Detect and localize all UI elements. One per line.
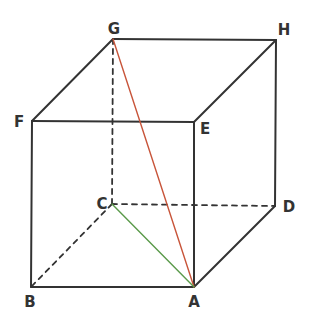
hidden-edge-cb <box>31 204 112 287</box>
vertex-label-c: C <box>96 195 107 213</box>
edge-he <box>194 40 276 122</box>
edge-hd <box>275 40 276 206</box>
vertex-label-g: G <box>108 20 120 38</box>
vertex-label-a: A <box>188 293 200 311</box>
cube-diagram: A B C D E F G H <box>0 0 309 321</box>
diagonal-CA <box>112 204 194 287</box>
hidden-edge-gc <box>112 39 113 204</box>
vertex-label-e: E <box>200 120 210 138</box>
vertex-label-f: F <box>14 113 24 131</box>
vertex-label-h: H <box>278 21 291 39</box>
vertex-label-b: B <box>24 293 35 311</box>
edge-gh <box>113 39 276 40</box>
edge-bf <box>31 121 32 287</box>
edge-da <box>194 206 275 287</box>
highlighted-diagonals <box>112 39 194 287</box>
hidden-edge-cd <box>112 204 275 206</box>
vertex-label-d: D <box>283 198 295 216</box>
edge-fg <box>32 39 113 121</box>
diagonal-GA <box>113 39 194 287</box>
